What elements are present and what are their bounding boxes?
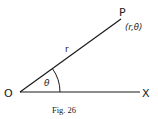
origin-label: O — [4, 87, 13, 100]
x-axis-label: X — [142, 87, 150, 100]
ray-op — [20, 19, 121, 92]
point-coords-label: (r,θ) — [125, 22, 142, 32]
figure-caption: Fig. 26 — [52, 105, 76, 115]
radius-label: r — [65, 44, 69, 54]
point-label: P — [119, 6, 126, 19]
angle-label: θ — [44, 78, 50, 88]
angle-arc — [52, 69, 60, 92]
polar-coordinates-diagram: O X P (r,θ) r θ Fig. 26 — [0, 0, 158, 119]
